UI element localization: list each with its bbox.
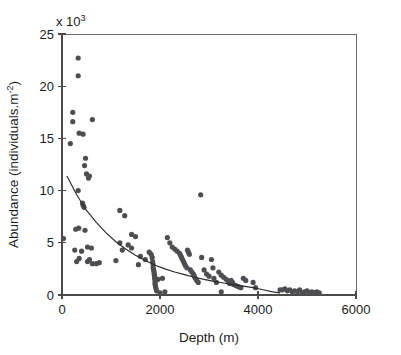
y-axis-title: Abundance (individuals.m-2): [5, 81, 21, 248]
data-point: [70, 119, 75, 124]
scatter-plot: 05101520250200040006000x 103Abundance (i…: [0, 0, 401, 355]
plot-frame: [62, 34, 356, 295]
data-point: [196, 280, 201, 285]
data-point: [129, 245, 134, 250]
x-tick-label: 4000: [244, 302, 273, 317]
data-point: [165, 235, 170, 240]
y-tick-label: 15: [40, 131, 54, 146]
data-point: [76, 188, 81, 193]
y-axis-multiplier-label: x 103: [56, 13, 86, 29]
data-point: [219, 289, 224, 294]
data-point: [86, 175, 91, 180]
x-axis-title: Depth (m): [179, 330, 239, 345]
x-tick-label: 2000: [146, 302, 175, 317]
y-tick-label: 25: [40, 27, 54, 42]
data-point: [210, 265, 215, 270]
data-point: [61, 236, 66, 241]
data-points-group: [61, 55, 322, 295]
data-point: [76, 73, 81, 78]
data-point: [76, 55, 81, 60]
data-point: [76, 226, 81, 231]
data-point: [199, 255, 204, 260]
data-point: [82, 228, 87, 233]
data-point: [133, 234, 138, 239]
data-point: [206, 274, 211, 279]
data-point: [160, 276, 165, 281]
y-tick-label: 5: [47, 235, 54, 250]
figure-container: 05101520250200040006000x 103Abundance (i…: [0, 0, 401, 355]
data-point: [113, 258, 118, 263]
data-point: [155, 277, 160, 282]
y-tick-label: 20: [40, 79, 54, 94]
data-point: [136, 262, 141, 267]
data-point: [162, 289, 167, 294]
data-point: [251, 280, 256, 285]
fit-curve: [67, 176, 280, 293]
x-tick-label: 6000: [342, 302, 371, 317]
data-point: [117, 208, 122, 213]
data-point: [198, 192, 203, 197]
data-point: [77, 256, 82, 261]
data-point: [87, 257, 92, 262]
y-tick-label: 10: [40, 183, 54, 198]
data-point: [97, 260, 102, 265]
data-point: [68, 141, 73, 146]
data-point: [209, 257, 214, 262]
data-point: [83, 156, 88, 161]
data-point: [317, 290, 322, 295]
x-tick-label: 0: [58, 302, 65, 317]
data-point: [80, 132, 85, 137]
data-point: [72, 248, 77, 253]
data-point: [157, 290, 162, 295]
data-point: [90, 117, 95, 122]
data-point: [70, 110, 75, 115]
data-point: [89, 245, 94, 250]
data-point: [187, 252, 192, 257]
data-point: [243, 278, 248, 283]
data-point: [79, 249, 84, 254]
data-point: [82, 163, 87, 168]
y-tick-label: 0: [47, 288, 54, 303]
data-point: [122, 213, 127, 218]
